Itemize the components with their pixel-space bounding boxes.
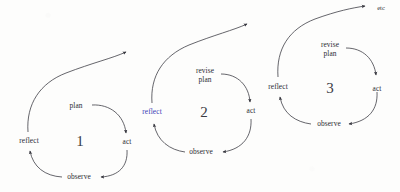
cycle-2-arc-observe-to-reflect	[154, 124, 185, 152]
cycle-1-arc-act-to-observe	[101, 150, 127, 177]
cycle-2-label-plan: revise plan	[196, 67, 214, 85]
cycle-3-group	[278, 6, 377, 124]
cycle-3-label-reflect: reflect	[268, 83, 288, 92]
cycle-3-arc-plan-to-act	[346, 48, 376, 75]
cycle-3-arc-observe-to-reflect	[280, 97, 311, 124]
cycle-3-label-plan: revise plan	[321, 41, 339, 59]
cycle-2-arc-act-to-observe	[223, 119, 251, 152]
cycle-1-label-act: act	[123, 138, 132, 147]
cycle-3-label-act: act	[373, 85, 382, 94]
cycle-1-group	[28, 52, 127, 177]
cycle-2-arc-plan-to-act	[221, 74, 250, 102]
cycle-2-group	[152, 24, 251, 152]
diagram-page: { "diagram": { "title": "Iterative plan-…	[0, 0, 400, 192]
cycle-1-arc-observe-to-reflect	[30, 151, 62, 177]
cycle-2-arc-reflect-spiral-out	[152, 24, 247, 103]
cycle-3-arc-act-to-observe	[349, 92, 377, 124]
cycle-2-label-observe: observe	[189, 148, 213, 157]
cycle-1-number: 1	[76, 133, 84, 150]
diagram-canvas	[0, 0, 400, 192]
cycle-3-number: 3	[326, 80, 334, 97]
terminal-label-etc: etc	[377, 4, 385, 11]
cycle-1-label-reflect: reflect	[19, 137, 39, 146]
cycle-2-number: 2	[200, 104, 208, 121]
cycle-2-label-act: act	[247, 107, 256, 116]
cycle-1-arc-reflect-spiral-out	[28, 52, 126, 132]
cycle-1-arc-plan-to-act	[92, 105, 126, 133]
cycle-3-label-observe: observe	[317, 120, 341, 129]
cycle-2-label-reflect: reflect	[142, 108, 162, 117]
cycle-1-label-plan: plan	[69, 102, 82, 111]
cycle-1-label-observe: observe	[67, 173, 91, 182]
